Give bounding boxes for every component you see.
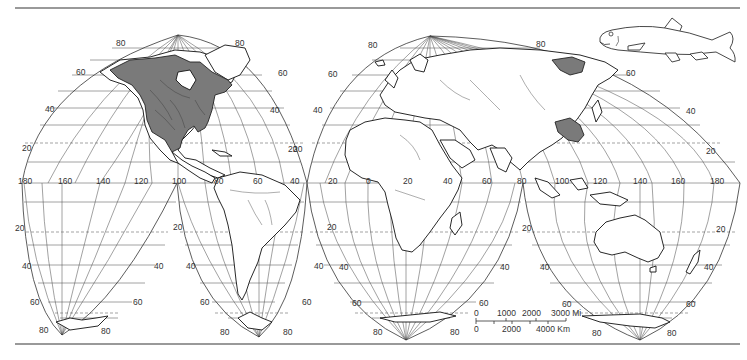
lat-label: 40 <box>500 262 510 272</box>
lon-label: 160 <box>671 176 685 186</box>
lobe-south-pacific-west <box>22 183 177 335</box>
lat-label: 40 <box>686 106 696 116</box>
map-svg: 80 60 40 20 80 60 40 20 80 60 40 20 80 6… <box>0 0 747 360</box>
lon-label: 180 <box>18 176 32 186</box>
lat-label: 80 <box>536 39 546 49</box>
lat-label: 20 <box>522 223 532 233</box>
lon-label: 80 <box>214 176 224 186</box>
lon-label: 120 <box>134 176 148 186</box>
lat-label: 20 <box>22 143 32 153</box>
lat-label: 80 <box>368 40 378 50</box>
lon-label: 40 <box>290 176 300 186</box>
lat-label: 20 <box>15 223 25 233</box>
lat-label: 40 <box>186 261 196 271</box>
lon-label: 100 <box>172 176 186 186</box>
lat-label: 80 <box>373 327 383 337</box>
lat-label: 60 <box>479 298 489 308</box>
fish-eye <box>609 32 613 36</box>
lat-label: 80 <box>235 38 245 48</box>
lat-label: 40 <box>45 104 55 114</box>
lat-label: 20 <box>173 222 183 232</box>
lon-label: 60 <box>253 176 263 186</box>
lat-label: 60 <box>686 299 696 309</box>
lat-label: 40 <box>270 105 280 115</box>
lat-label: 20 <box>293 144 303 154</box>
lat-label: 40 <box>314 261 324 271</box>
scale-km-0: 0 <box>474 324 479 334</box>
lon-label: 100 <box>555 176 569 186</box>
lat-label: 80 <box>450 327 460 337</box>
scale-mi-2000: 2000 <box>522 308 541 318</box>
south-america-coast <box>214 172 300 300</box>
lon-label: 60 <box>482 176 492 186</box>
scale-km-4000: 4000 Km <box>536 324 570 334</box>
lat-label: 40 <box>154 261 164 271</box>
lat-label: 60 <box>200 297 210 307</box>
scale-mi-0: 0 <box>474 308 479 318</box>
lon-label: 80 <box>517 176 527 186</box>
lat-label: 80 <box>667 328 677 338</box>
lat-label: 80 <box>283 327 293 337</box>
lat-label: 80 <box>220 327 230 337</box>
lon-label: 40 <box>443 176 453 186</box>
lat-label: 60 <box>76 67 86 77</box>
scale-mi-1000: 1000 <box>497 308 516 318</box>
lat-label: 80 <box>116 38 126 48</box>
scale-bar: 0 1000 2000 3000 Mi 0 2000 4000 Km <box>474 308 581 334</box>
lat-label: 60 <box>30 297 40 307</box>
lon-label: 0 <box>366 176 371 186</box>
lat-label: 80 <box>592 328 602 338</box>
lat-label: 40 <box>22 261 32 271</box>
lon-label: 20 <box>403 176 413 186</box>
lat-label: 20 <box>716 224 726 234</box>
lon-label: 120 <box>593 176 607 186</box>
fish-illustration <box>600 18 735 62</box>
lat-label: 60 <box>626 68 636 78</box>
lon-label: 160 <box>58 176 72 186</box>
lat-label: 20 <box>327 222 337 232</box>
lat-label: 80 <box>39 325 49 335</box>
lat-label: 40 <box>540 262 550 272</box>
world-distribution-map: 80 60 40 20 80 60 40 20 80 60 40 20 80 6… <box>0 0 747 360</box>
australia-coast <box>594 215 664 262</box>
lat-label: 40 <box>339 262 349 272</box>
lat-label: 20 <box>706 146 716 156</box>
lat-label: 60 <box>352 298 362 308</box>
lat-label: 40 <box>704 262 714 272</box>
lon-label: 20 <box>328 176 338 186</box>
lat-label: 60 <box>328 69 338 79</box>
lon-label: 140 <box>633 176 647 186</box>
lon-label: 180 <box>710 176 724 186</box>
lat-label: 40 <box>313 105 323 115</box>
lon-label: 140 <box>96 176 110 186</box>
lat-label: 60 <box>278 68 288 78</box>
lat-label: 60 <box>302 297 312 307</box>
lat-label: 80 <box>101 326 111 336</box>
scale-mi-3000: 3000 Mi <box>551 308 581 318</box>
scale-km-2000: 2000 <box>502 324 521 334</box>
lat-label: 60 <box>133 297 143 307</box>
